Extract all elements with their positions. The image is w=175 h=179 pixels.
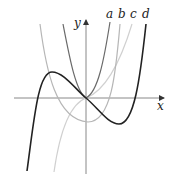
y-axis-label: y	[73, 16, 81, 30]
curve-a-label: a	[106, 7, 113, 21]
curve-c-label: c	[130, 7, 137, 21]
curve-b	[40, 24, 120, 122]
curve-d-label: d	[142, 7, 150, 21]
graph: y x a b c d	[0, 0, 175, 179]
curve-b-label: b	[118, 7, 126, 21]
x-axis-label: x	[157, 99, 164, 113]
